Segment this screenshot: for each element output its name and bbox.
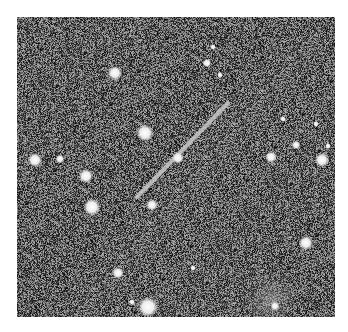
star bbox=[129, 299, 135, 305]
star bbox=[315, 153, 330, 168]
star bbox=[280, 116, 286, 122]
star bbox=[325, 143, 331, 149]
star bbox=[79, 169, 94, 184]
star bbox=[172, 152, 184, 164]
star bbox=[28, 153, 43, 168]
star bbox=[136, 124, 154, 142]
star bbox=[210, 44, 216, 50]
star bbox=[190, 265, 196, 271]
star bbox=[108, 66, 123, 81]
star bbox=[299, 236, 314, 251]
star bbox=[56, 155, 65, 164]
star bbox=[138, 297, 159, 318]
stars-overlay bbox=[17, 17, 335, 317]
star bbox=[292, 141, 301, 150]
star bbox=[203, 59, 212, 68]
star bbox=[112, 267, 124, 279]
nebula-glow bbox=[242, 272, 298, 317]
glow-layer bbox=[242, 272, 298, 317]
star bbox=[313, 121, 319, 127]
star bbox=[83, 198, 101, 216]
star bbox=[217, 72, 223, 78]
satellite-streak bbox=[137, 103, 228, 197]
stars-layer bbox=[28, 44, 332, 317]
star bbox=[265, 151, 277, 163]
star bbox=[271, 302, 280, 311]
star-field-image bbox=[17, 17, 335, 317]
star bbox=[146, 199, 158, 211]
